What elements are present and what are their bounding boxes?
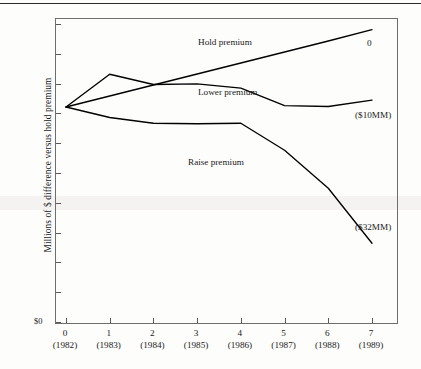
x-tick-number: 0 [53,327,78,339]
x-tick-number: 3 [184,327,209,339]
y-axis-title: Millions of $ difference versus hold pre… [43,55,53,275]
x-tick-year: (1984) [140,339,165,352]
x-tick-number: 2 [140,327,165,339]
x-tick-number: 4 [228,327,253,339]
x-axis-tick [197,318,198,323]
x-tick-number: 6 [315,327,340,339]
series-label-lower-premium: Lower premium [198,87,257,97]
page-top-rule [0,3,421,4]
x-axis-tick-label: 6(1988) [315,327,340,352]
x-axis-tick [241,318,242,323]
y-axis-tick [56,84,61,85]
chart-canvas [56,19,397,323]
y-axis-tick [56,24,61,25]
y-axis-tick [56,54,61,55]
y-axis-tick [56,203,61,204]
x-axis-tick [372,318,373,323]
figure-page: Millions of $ difference versus hold pre… [0,0,421,369]
x-tick-year: (1989) [359,339,384,352]
x-axis-tick-label: 3(1985) [184,327,209,352]
x-axis-tick [110,318,111,323]
x-axis-tick-label: 7(1989) [359,327,384,352]
series-label-raise-premium: Raise premium [188,157,244,167]
y-axis-tick [56,292,61,293]
x-axis-tick [153,318,154,323]
x-tick-year: (1983) [96,339,121,352]
y-axis-tick [56,143,61,144]
series-label-hold-premium: Hold premium [198,37,252,47]
x-axis-tick-label: 5(1987) [271,327,296,352]
y-axis-tick [56,173,61,174]
y-axis-baseline-label: $0 [34,317,42,326]
x-tick-year: (1985) [184,339,209,352]
y-axis-tick [56,113,61,114]
x-tick-year: (1986) [228,339,253,352]
x-tick-year: (1982) [53,339,78,352]
plot-area: Hold premium Lower premium Raise premium [55,18,398,324]
y-axis-tick [56,322,61,323]
endpoint-label-raise-premium: ($32MM) [355,222,391,232]
x-tick-number: 5 [271,327,296,339]
x-axis-tick-label: 0(1982) [53,327,78,352]
x-axis-tick [328,318,329,323]
x-axis-tick-label: 4(1986) [228,327,253,352]
x-tick-number: 1 [96,327,121,339]
x-tick-number: 7 [359,327,384,339]
endpoint-label-hold-premium: 0 [367,38,372,48]
x-axis-tick [285,318,286,323]
x-tick-year: (1988) [315,339,340,352]
x-axis-tick-label: 2(1984) [140,327,165,352]
x-axis-tick-label: 1(1983) [96,327,121,352]
series-line-raise-premium [66,107,372,243]
x-axis-labels: 0(1982)1(1983)2(1984)3(1985)4(1986)5(198… [55,327,398,367]
endpoint-label-lower-premium: ($10MM) [355,110,391,120]
y-axis-tick [56,233,61,234]
x-tick-year: (1987) [271,339,296,352]
x-axis-tick [66,318,67,323]
y-axis-tick [56,262,61,263]
